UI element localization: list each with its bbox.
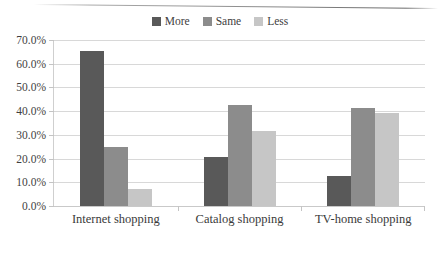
bar-same-1 [104, 147, 128, 206]
legend-item-more: More [152, 16, 190, 27]
bar-less-2 [252, 131, 276, 206]
y-axis-tick-label: 30.0% [16, 130, 46, 141]
legend-label-more: More [165, 16, 190, 27]
legend-item-same: Same [203, 16, 242, 27]
y-axis-tick-label: 0.0% [22, 201, 46, 212]
bar-more-1 [80, 51, 104, 206]
y-axis-tick-label: 50.0% [16, 82, 46, 93]
y-axis-tick [49, 206, 54, 207]
bar-group-bars [54, 40, 178, 206]
x-axis-category-label: Internet shopping [54, 212, 178, 226]
x-axis-tick [178, 206, 179, 211]
legend-label-less: Less [267, 16, 288, 27]
bar-less-3 [375, 113, 399, 206]
bar-same-3 [351, 108, 375, 206]
y-axis-tick-label: 70.0% [16, 35, 46, 46]
gridline [54, 206, 425, 207]
bar-more-3 [327, 176, 351, 206]
legend-swatch-less [254, 17, 263, 26]
bar-group-bars [301, 40, 425, 206]
legend-item-less: Less [254, 16, 288, 27]
x-axis-tick [424, 206, 425, 211]
legend-swatch-same [203, 17, 212, 26]
x-axis-category-label: Catalog shopping [178, 212, 302, 226]
chart-legend: More Same Less [0, 16, 440, 27]
bar-chart: More Same Less 70.0%60.0%50.0%40.0%30.0%… [0, 0, 440, 256]
bar-more-2 [204, 157, 228, 206]
bar-group-bars [178, 40, 302, 206]
x-axis-labels: Internet shoppingCatalog shoppingTV-home… [54, 212, 425, 226]
y-axis-tick-label: 20.0% [16, 154, 46, 165]
bar-groups [54, 40, 425, 206]
x-axis-tick [301, 206, 302, 211]
y-axis-tick-label: 10.0% [16, 177, 46, 188]
y-axis-tick-label: 40.0% [16, 106, 46, 117]
legend-swatch-more [152, 17, 161, 26]
scan-artifact-line [34, 4, 438, 9]
bar-less-1 [128, 189, 152, 206]
bar-group [301, 40, 425, 206]
bar-same-2 [228, 105, 252, 206]
x-axis-category-label: TV-home shopping [301, 212, 425, 226]
y-axis-tick-label: 60.0% [16, 59, 46, 70]
bar-group [178, 40, 302, 206]
bar-group [54, 40, 178, 206]
legend-label-same: Same [216, 16, 242, 27]
plot-area: 70.0%60.0%50.0%40.0%30.0%20.0%10.0%0.0% [54, 40, 425, 206]
